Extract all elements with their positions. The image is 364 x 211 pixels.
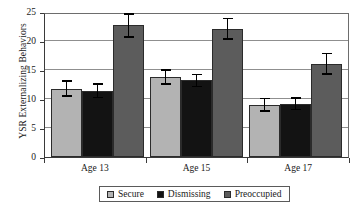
error-bar-cap bbox=[62, 80, 72, 82]
bar[interactable] bbox=[249, 105, 280, 157]
legend-item[interactable]: Secure bbox=[107, 189, 144, 199]
error-bar-cap bbox=[223, 38, 233, 40]
error-bar-cap bbox=[124, 36, 134, 38]
error-bar bbox=[165, 69, 167, 84]
x-axis-tick-mark bbox=[44, 158, 45, 163]
error-bar bbox=[196, 74, 198, 88]
bar-slot bbox=[150, 14, 181, 157]
bar-slot bbox=[51, 14, 82, 157]
x-axis-label: Age 15 bbox=[152, 163, 242, 173]
error-bar bbox=[97, 83, 99, 98]
y-axis-tick-label: 5 bbox=[0, 123, 36, 133]
error-bar-cap bbox=[192, 74, 202, 76]
error-bar bbox=[128, 13, 130, 37]
error-bar bbox=[295, 97, 297, 110]
legend-item[interactable]: Dismissing bbox=[157, 189, 211, 199]
y-axis-title: YSR Externalizing Behaviors bbox=[18, 6, 28, 156]
bar[interactable] bbox=[181, 80, 212, 157]
bar[interactable] bbox=[212, 29, 243, 157]
error-bar-cap bbox=[260, 98, 270, 100]
y-axis-tick-mark bbox=[40, 42, 44, 43]
chart-figure: YSR Externalizing Behaviors 0510152025 A… bbox=[0, 0, 364, 211]
bar[interactable] bbox=[113, 25, 144, 157]
legend-label: Preoccupied bbox=[235, 189, 282, 199]
legend: SecureDismissingPreoccupied bbox=[99, 186, 290, 202]
bar-slot bbox=[181, 14, 212, 157]
legend-swatch-icon bbox=[157, 191, 164, 198]
error-bar-cap bbox=[93, 97, 103, 99]
y-axis-tick-mark bbox=[40, 129, 44, 130]
bar-groups bbox=[45, 14, 348, 157]
bar[interactable] bbox=[311, 64, 342, 157]
y-axis-tick-label: 25 bbox=[0, 7, 36, 17]
error-bar bbox=[227, 18, 229, 40]
error-bar-cap bbox=[62, 95, 72, 97]
bar[interactable] bbox=[51, 89, 82, 157]
bar-slot bbox=[212, 14, 243, 157]
y-axis-tick-label: 0 bbox=[0, 152, 36, 162]
bar-slot bbox=[113, 14, 144, 157]
legend-label: Dismissing bbox=[168, 189, 211, 199]
y-axis-tick-mark bbox=[40, 13, 44, 14]
error-bar-cap bbox=[192, 86, 202, 88]
bar-slot bbox=[280, 14, 311, 157]
error-bar-cap bbox=[260, 110, 270, 112]
error-bar-cap bbox=[223, 18, 233, 20]
x-axis-tick-mark bbox=[247, 158, 248, 163]
bar-group bbox=[150, 14, 243, 157]
x-axis-label: Age 17 bbox=[253, 163, 343, 173]
x-axis-label: Age 13 bbox=[50, 163, 140, 173]
legend-swatch-icon bbox=[107, 191, 114, 198]
plot-area bbox=[44, 13, 349, 158]
y-axis-tick-label: 20 bbox=[0, 36, 36, 46]
error-bar-cap bbox=[291, 97, 301, 99]
bar-slot bbox=[249, 14, 280, 157]
bar[interactable] bbox=[82, 91, 113, 157]
legend-swatch-icon bbox=[224, 191, 231, 198]
y-axis-tick-label: 10 bbox=[0, 94, 36, 104]
bar-group bbox=[249, 14, 342, 157]
y-axis-tick-mark bbox=[40, 71, 44, 72]
error-bar bbox=[326, 53, 328, 75]
error-bar-cap bbox=[291, 109, 301, 111]
error-bar bbox=[264, 98, 266, 112]
bar[interactable] bbox=[150, 77, 181, 157]
y-axis-tick-label: 15 bbox=[0, 65, 36, 75]
error-bar-cap bbox=[322, 53, 332, 55]
error-bar-cap bbox=[161, 69, 171, 71]
error-bar-cap bbox=[124, 13, 134, 15]
error-bar-cap bbox=[93, 83, 103, 85]
error-bar bbox=[66, 80, 68, 96]
legend-item[interactable]: Preoccupied bbox=[224, 189, 282, 199]
error-bar-cap bbox=[322, 73, 332, 75]
x-axis-tick-mark bbox=[146, 158, 147, 163]
x-axis-tick-mark bbox=[349, 158, 350, 163]
bar-group bbox=[51, 14, 144, 157]
bar-slot bbox=[311, 14, 342, 157]
bar-slot bbox=[82, 14, 113, 157]
error-bar-cap bbox=[161, 83, 171, 85]
legend-label: Secure bbox=[118, 189, 144, 199]
y-axis-tick-mark bbox=[40, 100, 44, 101]
bar[interactable] bbox=[280, 104, 311, 157]
